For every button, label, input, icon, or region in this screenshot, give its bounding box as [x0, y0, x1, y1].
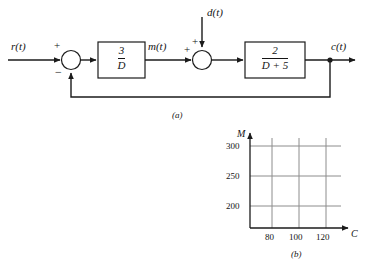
figure-caption-b: (b) — [291, 249, 302, 259]
x-tick-label-120: 120 — [316, 232, 330, 242]
y-axis-label: M — [237, 128, 245, 139]
summing-junction-2-plus-top-sign: + — [192, 36, 198, 47]
y-tick-label-300: 300 — [226, 141, 240, 151]
figure-caption-a: (a) — [172, 110, 183, 120]
x-axis-label: C — [351, 228, 358, 239]
y-tick-label-250: 250 — [226, 171, 240, 181]
input-signal-label: r(t) — [11, 41, 26, 52]
manipulated-signal-label: m(t) — [148, 41, 166, 52]
plant-numerator: 2 — [262, 45, 288, 57]
summing-junction-1-plus-sign: + — [54, 40, 60, 51]
controller-block-transfer-function: 3 D — [98, 45, 145, 72]
summing-junction-2 — [193, 51, 212, 70]
output-signal-label: c(t) — [331, 41, 346, 52]
disturbance-signal-label: d(t) — [207, 7, 223, 18]
x-tick-label-80: 80 — [265, 232, 274, 242]
grid-plot-group — [250, 133, 348, 228]
plant-block-transfer-function: 2 D + 5 — [245, 45, 305, 72]
figure-container: r(t) + − 3 D m(t) + + d(t) 2 D + 5 c(t) … — [0, 0, 366, 273]
x-tick-label-100: 100 — [289, 232, 303, 242]
summing-junction-2-plus-left-sign: + — [184, 44, 190, 55]
summing-junction-1-minus-sign: − — [55, 66, 62, 78]
controller-denominator: D — [118, 60, 126, 72]
plant-denominator: D + 5 — [262, 60, 288, 72]
y-tick-label-200: 200 — [226, 201, 240, 211]
controller-numerator: 3 — [118, 45, 126, 57]
summing-junction-1 — [62, 51, 81, 70]
